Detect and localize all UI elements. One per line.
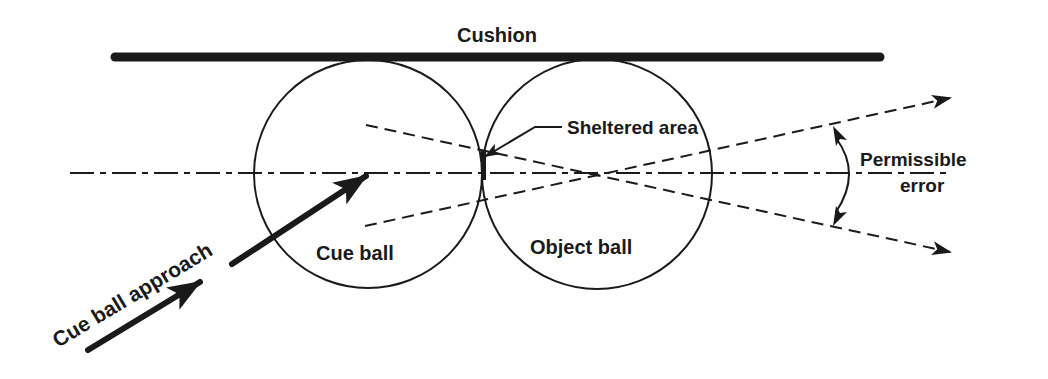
billiards-diagram: Cushion Sheltered area Permissible error…	[0, 0, 1048, 379]
cue-ball-label: Cue ball	[316, 242, 394, 264]
permissible-error-arc	[836, 138, 849, 212]
cushion-label: Cushion	[457, 24, 537, 46]
permissible-label: Permissible	[860, 149, 967, 170]
object-ball-label: Object ball	[530, 236, 632, 258]
cue-ball-approach-label: Cue ball approach	[48, 238, 216, 351]
error-line-lower	[366, 125, 950, 252]
arc-arrowhead-bottom	[833, 206, 847, 226]
sheltered-area-leader	[486, 127, 562, 156]
sheltered-area-label: Sheltered area	[567, 117, 698, 138]
sheltered-area-mark	[481, 150, 486, 180]
error-label: error	[900, 175, 945, 196]
